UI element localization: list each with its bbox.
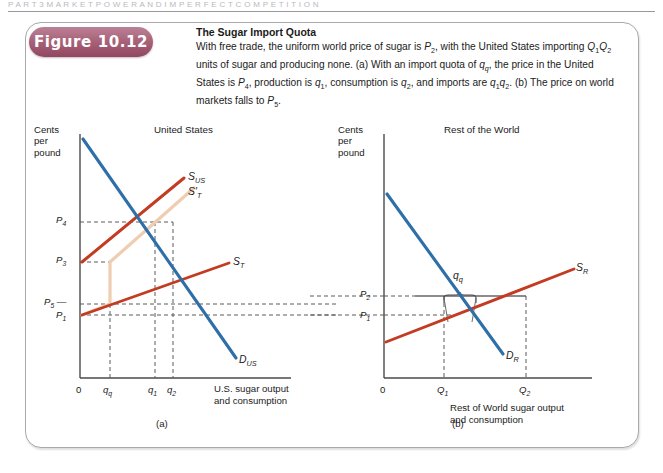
curve-label-st-prime: S′T — [188, 186, 201, 200]
xtick-origin: 0 — [76, 384, 81, 395]
annotation-qq: qq — [453, 270, 463, 284]
panel-b-x-axis-label: Rest of World sugar outputand consumptio… — [450, 402, 640, 425]
panel-a-label: (a) — [156, 418, 168, 429]
ytick-p4: P4 — [56, 214, 66, 227]
figure-number-label: Figure 10.12 — [29, 27, 153, 57]
ytick-p5: P5 — — [44, 296, 66, 309]
xtick-q2: q2 — [167, 384, 176, 397]
panel-b-label: (b) — [452, 418, 464, 429]
curve-sus — [82, 178, 184, 262]
panel-united-states: Centsperpound United States SUS S′T ST D… — [36, 126, 336, 426]
xtick-q2: Q2 — [519, 384, 530, 397]
xtick-qq: qq — [103, 384, 112, 397]
xtick-q1: Q1 — [437, 384, 448, 397]
ytick-p1: P1 — [360, 309, 370, 322]
figure-number-badge: Figure 10.12 — [29, 27, 153, 57]
ytick-p1: P1 — [56, 309, 66, 322]
figure-title: The Sugar Import Quota — [196, 26, 616, 38]
header-rule — [8, 11, 655, 12]
curve-label-dus: DUS — [239, 354, 257, 368]
panel-b-guides — [310, 296, 526, 378]
figure-caption: With free trade, the uniform world price… — [196, 40, 620, 113]
xtick-q1: q1 — [148, 384, 157, 397]
curve-label-sus: SUS — [188, 171, 205, 185]
panel-b-canvas — [340, 126, 636, 426]
curve-label-sr: SR — [576, 262, 588, 276]
panel-a-guides — [80, 222, 336, 378]
curve-sr — [386, 269, 574, 342]
panel-a-x-axis-label: U.S. sugar outputand consumption — [214, 383, 334, 406]
curve-dus — [83, 139, 236, 358]
curve-dr — [387, 194, 503, 354]
panel-rest-of-world: Centsperpound Rest of the World SR DR qq… — [340, 126, 636, 426]
ytick-p3: P3 — [56, 254, 66, 267]
curve-label-st: ST — [233, 256, 244, 270]
curve-label-dr: DR — [506, 350, 519, 364]
xtick-origin: 0 — [380, 384, 385, 395]
panel-a-canvas — [36, 126, 336, 426]
ytick-p2: P2 — [360, 288, 370, 301]
